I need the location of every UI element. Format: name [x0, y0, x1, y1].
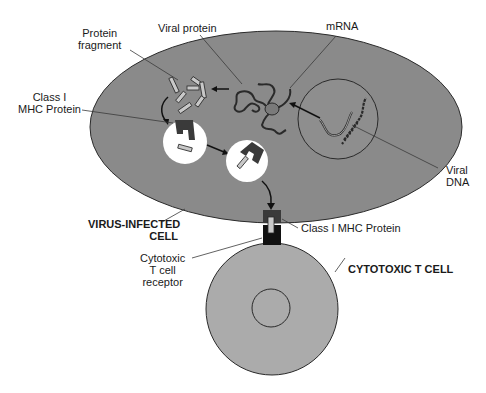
label-viral-protein: Viral protein	[158, 22, 217, 34]
label-line: Class I	[18, 91, 81, 103]
label-class1-mhc-top: Class I MHC Protein	[18, 91, 81, 115]
label-line: Protein	[78, 27, 121, 39]
label-virus-infected-cell: VIRUS-INFECTED CELL	[88, 218, 178, 242]
label-line: receptor	[140, 276, 185, 288]
label-protein-fragment: Protein fragment	[78, 27, 121, 51]
label-class1-mhc-bottom: Class I MHC Protein	[301, 222, 401, 234]
label-line: CELL	[88, 230, 178, 242]
label-viral-dna: Viral DNA	[446, 164, 469, 188]
label-line: VIRUS-INFECTED	[88, 218, 178, 230]
presented-fragment	[268, 217, 274, 233]
label-line: fragment	[78, 39, 121, 51]
label-line: T cell	[140, 264, 185, 276]
label-line: MHC Protein	[18, 103, 81, 115]
ribosome	[265, 103, 279, 115]
label-line: Cytotoxic	[140, 252, 185, 264]
label-line: DNA	[446, 176, 469, 188]
label-mrna: mRNA	[326, 20, 358, 32]
nucleus	[298, 79, 378, 159]
label-tcell-receptor: Cytotoxic T cell receptor	[140, 252, 185, 288]
diagram-canvas	[0, 0, 486, 393]
t-cell-nucleus	[252, 289, 290, 327]
label-cytotoxic-t-cell: CYTOTOXIC T CELL	[348, 263, 453, 275]
label-line: Viral	[446, 164, 469, 176]
